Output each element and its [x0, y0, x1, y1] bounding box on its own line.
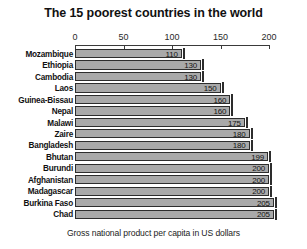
category-label: Guinea-Bissau: [18, 95, 73, 104]
bar-value-label: 175: [221, 118, 241, 127]
bar-end-tick: [269, 151, 271, 162]
bar-row: Afghanistan200: [0, 174, 307, 185]
category-label: Laos: [55, 84, 73, 93]
bar-row: Guinea-Bissau160: [0, 94, 307, 105]
bar-row: Ethiopia130: [0, 59, 307, 70]
bar-end-tick: [270, 186, 272, 197]
bar-end-tick: [275, 209, 277, 220]
bar-row: Bhutan199: [0, 151, 307, 162]
bar-end-tick: [231, 105, 233, 116]
bar-value-label: 180: [226, 141, 246, 150]
bar-value-label: 205: [250, 210, 270, 219]
category-label: Afghanistan: [28, 175, 73, 184]
bar-end-tick: [270, 163, 272, 174]
bar-row: Cambodia130: [0, 71, 307, 82]
bar-value-label: 200: [245, 187, 265, 196]
bar-end-tick: [246, 117, 248, 128]
bar: [75, 175, 269, 184]
bar-end-tick: [251, 140, 253, 151]
plot-area: Mozambique110Ethiopia130Cambodia130Laos1…: [0, 48, 307, 220]
bar-end-tick: [183, 48, 185, 59]
bar: [75, 187, 269, 196]
bar-end-tick: [231, 94, 233, 105]
chart-caption: Gross national product per capita in US …: [0, 228, 307, 238]
bar-row: Burundi200: [0, 163, 307, 174]
bar-row: Burkina Faso205: [0, 197, 307, 208]
bar-value-label: 200: [245, 175, 265, 184]
bar-value-label: 180: [226, 129, 246, 138]
x-axis-tick-label: 50: [118, 32, 128, 42]
bar-row: Bangladesh180: [0, 140, 307, 151]
bar: [75, 164, 269, 173]
bar-value-label: 200: [245, 164, 265, 173]
chart-container: The 15 poorest countries in the world 05…: [0, 0, 307, 249]
bar-row: Laos150: [0, 82, 307, 93]
bar-row: Nepal160: [0, 105, 307, 116]
bar-end-tick: [251, 128, 253, 139]
chart-title: The 15 poorest countries in the world: [0, 6, 307, 20]
bar-value-label: 130: [177, 61, 197, 70]
category-label: Malawi: [47, 118, 73, 127]
bar: [75, 210, 274, 219]
bar-row: Chad205: [0, 209, 307, 220]
bar: [75, 118, 245, 127]
category-label: Zaire: [54, 129, 73, 138]
bar-end-tick: [275, 197, 277, 208]
bar-end-tick: [222, 82, 224, 93]
bar-value-label: 160: [206, 95, 226, 104]
x-axis-tick-label: 200: [261, 32, 276, 42]
bar-value-label: 199: [244, 152, 264, 161]
bar-value-label: 150: [197, 84, 217, 93]
bar: [75, 152, 268, 161]
category-label: Ethiopia: [42, 61, 73, 70]
category-label: Bhutan: [46, 152, 73, 161]
x-axis-tick-label: 100: [164, 32, 179, 42]
x-axis-tick-label: 150: [213, 32, 228, 42]
category-label: Burkina Faso: [24, 198, 73, 207]
bar-value-label: 110: [158, 49, 178, 58]
category-label: Madagascar: [28, 187, 73, 196]
category-label: Nepal: [52, 107, 73, 116]
bar-value-label: 205: [250, 198, 270, 207]
bar-value-label: 160: [206, 107, 226, 116]
bar: [75, 141, 250, 150]
category-label: Chad: [53, 210, 73, 219]
bar-row: Mozambique110: [0, 48, 307, 59]
bar-row: Zaire180: [0, 128, 307, 139]
bar-value-label: 130: [177, 72, 197, 81]
bar: [75, 198, 274, 207]
category-label: Bangladesh: [29, 141, 73, 150]
bar-end-tick: [202, 71, 204, 82]
x-axis-tick-label: 0: [72, 32, 77, 42]
bar-end-tick: [202, 59, 204, 70]
bar-row: Malawi175: [0, 117, 307, 128]
x-axis: 050100150200: [75, 26, 269, 46]
bar-row: Madagascar200: [0, 186, 307, 197]
category-label: Burundi: [43, 164, 73, 173]
bar-end-tick: [270, 174, 272, 185]
bar: [75, 129, 250, 138]
category-label: Cambodia: [35, 72, 73, 81]
category-label: Mozambique: [25, 49, 73, 58]
